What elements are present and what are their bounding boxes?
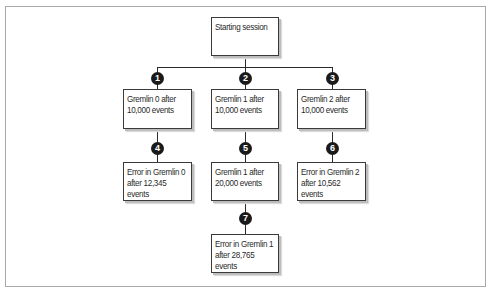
node-error-gremlin-2: Error in Gremlin 2 after 10,562 events — [297, 162, 366, 201]
step-badge-4: 4 — [151, 142, 164, 155]
step-badge-5: 5 — [239, 142, 252, 155]
node-gremlin-1-20000: Gremlin 1 after 20,000 events — [211, 162, 279, 201]
node-error-gremlin-1: Error in Gremlin 1 after 28,765 events — [211, 234, 279, 273]
node-label: Error in Gremlin 1 after 28,765 events — [215, 238, 284, 271]
step-badge-2: 2 — [239, 72, 252, 85]
step-badge-1: 1 — [151, 72, 164, 85]
node-label: Gremlin 1 after 10,000 events — [215, 93, 284, 115]
node-label: Gremlin 2 after 10,000 events — [301, 93, 370, 115]
step-badge-7: 7 — [239, 212, 252, 225]
connector-root — [245, 55, 246, 67]
node-error-gremlin-0: Error in Gremlin 0 after 12,345 events — [123, 162, 192, 201]
node-gremlin-2-10000: Gremlin 2 after 10,000 events — [297, 89, 366, 129]
node-label: Gremlin 0 after 10,000 events — [127, 93, 196, 115]
node-starting-session: Starting session — [211, 17, 279, 56]
step-badge-3: 3 — [326, 72, 339, 85]
node-label: Gremlin 1 after 20,000 events — [215, 166, 284, 188]
node-gremlin-0-10000: Gremlin 0 after 10,000 events — [123, 89, 192, 129]
node-gremlin-1-10000: Gremlin 1 after 10,000 events — [211, 89, 279, 129]
node-label: Error in Gremlin 2 after 10,562 events — [301, 166, 370, 199]
node-label: Error in Gremlin 0 after 12,345 events — [127, 166, 196, 199]
node-label: Starting session — [215, 21, 284, 32]
step-badge-6: 6 — [326, 142, 339, 155]
